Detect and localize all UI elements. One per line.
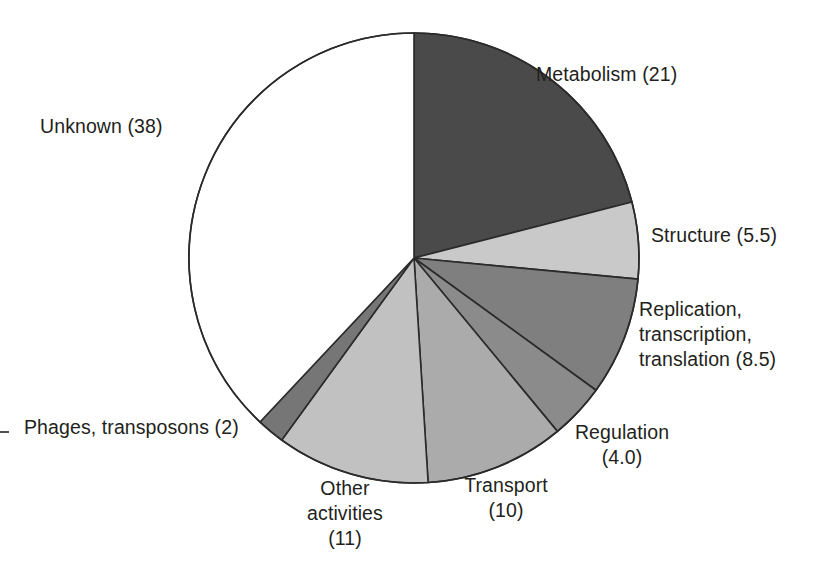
pie-label-unknown-line-1: Unknown (38) bbox=[40, 114, 163, 139]
pie-chart-svg bbox=[0, 0, 819, 570]
pie-label-regulation: Regulation (4.0) bbox=[560, 420, 684, 470]
pie-label-other-activities-line-2: activities bbox=[285, 501, 405, 526]
pie-label-replication-line-1: Replication, bbox=[639, 297, 776, 322]
pie-label-structure: Structure (5.5) bbox=[651, 223, 777, 248]
pie-label-structure-line-1: Structure (5.5) bbox=[651, 223, 777, 248]
pie-label-transport-line-2: (10) bbox=[446, 498, 566, 523]
pie-label-phages-transposons: Phages, transposons (2) bbox=[24, 415, 239, 440]
pie-label-other-activities-line-3: (11) bbox=[285, 526, 405, 551]
pie-label-other-activities: Other activities (11) bbox=[285, 476, 405, 551]
pie-label-other-activities-line-1: Other bbox=[285, 476, 405, 501]
edge-tick-mark bbox=[0, 431, 9, 433]
pie-label-unknown: Unknown (38) bbox=[40, 114, 163, 139]
pie-label-replication-line-3: translation (8.5) bbox=[639, 347, 776, 372]
pie-label-regulation-line-2: (4.0) bbox=[560, 445, 684, 470]
pie-label-replication-transcription-translation: Replication, transcription, translation … bbox=[639, 297, 776, 372]
pie-label-replication-line-2: transcription, bbox=[639, 322, 776, 347]
pie-label-regulation-line-1: Regulation bbox=[560, 420, 684, 445]
pie-label-metabolism-line-1: Metabolism (21) bbox=[536, 62, 677, 87]
pie-chart-figure: Unknown (38) Metabolism (21) Structure (… bbox=[0, 0, 819, 570]
pie-label-transport-line-1: Transport bbox=[446, 473, 566, 498]
pie-label-metabolism: Metabolism (21) bbox=[536, 62, 677, 87]
pie-slice-group bbox=[189, 33, 639, 483]
pie-label-phages-line-1: Phages, transposons (2) bbox=[24, 415, 239, 440]
pie-label-transport: Transport (10) bbox=[446, 473, 566, 523]
